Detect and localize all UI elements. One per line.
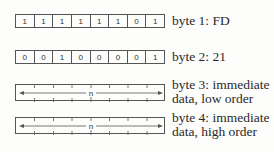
bit: 1 xyxy=(53,51,72,63)
bit: 1 xyxy=(16,15,35,27)
byte3-label: byte 3: immediate data, low order xyxy=(172,78,269,106)
bit: 0 xyxy=(109,51,128,63)
bit: 0 xyxy=(128,15,147,27)
byte4-label-line2: data, high order xyxy=(172,125,269,139)
bit: 1 xyxy=(146,15,164,27)
bit: 1 xyxy=(53,15,72,27)
byte3-label-line2: data, low order xyxy=(172,92,269,106)
svg-text:n: n xyxy=(89,122,93,131)
bit: 1 xyxy=(146,51,164,63)
double-arrow-icon: n xyxy=(16,118,166,135)
bit: 0 xyxy=(35,51,54,63)
bit: 0 xyxy=(91,51,110,63)
byte3-label-line1: byte 3: immediate xyxy=(172,78,269,92)
svg-text:n: n xyxy=(89,89,93,98)
bit: 0 xyxy=(72,51,91,63)
bit: 1 xyxy=(109,15,128,27)
byte3-field: n xyxy=(15,84,165,101)
byte1-bits: 1 1 1 1 1 1 0 1 xyxy=(15,14,165,28)
byte4-label: byte 4: immediate data, high order xyxy=(172,111,269,139)
bit: 0 xyxy=(128,51,147,63)
byte4-label-line1: byte 4: immediate xyxy=(172,111,269,125)
byte2-label: byte 2: 21 xyxy=(172,50,226,64)
bit: 1 xyxy=(35,15,54,27)
bit: 1 xyxy=(91,15,110,27)
byte4-field: n xyxy=(15,117,165,134)
bit: 1 xyxy=(72,15,91,27)
double-arrow-icon: n xyxy=(16,85,166,102)
bit: 0 xyxy=(16,51,35,63)
byte2-bits: 0 0 1 0 0 0 0 1 xyxy=(15,50,165,64)
byte1-label: byte 1: FD xyxy=(172,14,230,28)
